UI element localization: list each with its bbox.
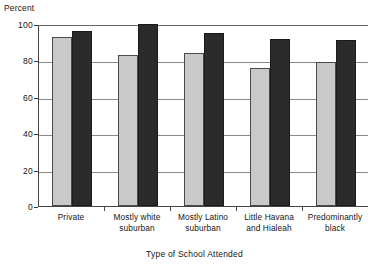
y-axis-tick (34, 98, 38, 99)
bar-group (237, 26, 303, 206)
y-axis-tick (34, 61, 38, 62)
bar (52, 37, 72, 206)
y-axis-tick (34, 171, 38, 172)
x-axis-tick (236, 207, 237, 211)
category-label-line: black (296, 223, 374, 234)
category-label-line: Predominantly (296, 212, 374, 223)
x-axis-category-label: Predominantlyblack (296, 212, 374, 233)
x-axis-tick (302, 207, 303, 211)
y-axis-tick-label: 60 (3, 93, 33, 103)
bar (250, 68, 270, 206)
bar-group (303, 26, 369, 206)
x-axis-title: Type of School Attended (0, 249, 389, 259)
bar-group (105, 26, 171, 206)
bar-chart: Percent 020406080100 PrivateMostly white… (0, 0, 389, 266)
bar (316, 62, 336, 206)
y-axis-tick (34, 207, 38, 208)
y-axis-tick-label: 100 (3, 20, 33, 30)
x-axis-category-labels: PrivateMostly whitesuburbanMostly Latino… (38, 212, 368, 246)
bar-group (171, 26, 237, 206)
bar (138, 24, 158, 206)
plot-area (38, 25, 368, 207)
bar (270, 39, 290, 206)
y-axis-tick-label: 40 (3, 129, 33, 139)
bar (204, 33, 224, 206)
x-axis-tick (104, 207, 105, 211)
bar (72, 31, 92, 206)
bar (336, 40, 356, 206)
y-axis-tick (34, 25, 38, 26)
y-axis-tick-label: 20 (3, 166, 33, 176)
y-axis-labels: 020406080100 (0, 0, 33, 266)
y-axis-tick-label: 0 (3, 202, 33, 212)
y-axis-tick-label: 80 (3, 56, 33, 66)
bar (118, 55, 138, 206)
bar-group (39, 26, 105, 206)
x-axis-tick (170, 207, 171, 211)
bar (184, 53, 204, 206)
y-axis-tick (34, 134, 38, 135)
